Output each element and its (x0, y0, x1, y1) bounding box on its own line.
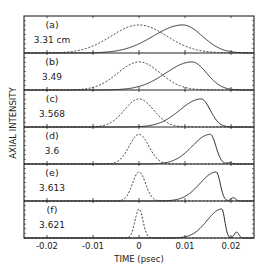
y-axis-label: AXIAL INTENSITY (8, 78, 18, 168)
panel-f-letter: (f) (47, 204, 58, 215)
panel-f-value: 3.621 (39, 220, 65, 230)
panel-c-value: 3.568 (39, 109, 65, 119)
panel-d-value: 3.6 (45, 146, 59, 156)
panel-d-letter: (d) (45, 130, 58, 141)
panel-a-letter: (a) (45, 19, 58, 30)
x-tick-label: 0.02 (222, 241, 241, 251)
panel-a-value: 3.31 cm (34, 35, 71, 45)
panels-group (24, 16, 254, 238)
x-tick-label: -0.02 (36, 241, 58, 251)
panel-b-value: 3.49 (42, 72, 62, 82)
x-tick-label: 0 (136, 241, 141, 251)
x-tick-label: -0.01 (82, 241, 104, 251)
panel-e-value: 3.613 (39, 183, 65, 193)
panel-b-letter: (b) (45, 56, 58, 67)
panel-e-letter: (e) (45, 167, 58, 178)
x-axis-label: TIME (psec) (114, 254, 163, 264)
panel-c-letter: (c) (46, 93, 59, 104)
x-tick-label: 0.01 (176, 241, 195, 251)
